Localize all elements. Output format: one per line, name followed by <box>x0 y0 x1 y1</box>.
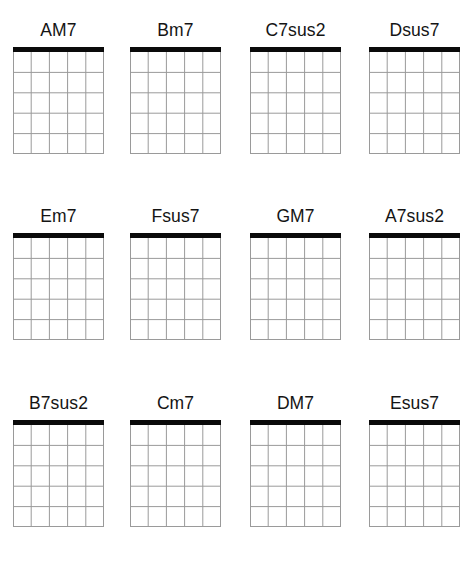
fretboard-lattice <box>130 425 221 527</box>
fret-string-lines <box>130 238 221 340</box>
fret-string-lines <box>250 52 341 154</box>
fretboard[interactable] <box>250 233 341 340</box>
chord-cell[interactable]: Dsus7 <box>355 0 465 154</box>
fret-string-lines <box>250 238 341 340</box>
chord-diagram-dm7[interactable]: DM7 <box>241 376 351 527</box>
chord-label: A7sus2 <box>385 207 444 226</box>
chord-label: AM7 <box>40 21 76 40</box>
chord-sheet: AM7 Bm7 C7sus2 <box>0 0 468 565</box>
fret-string-lines <box>130 425 221 527</box>
chord-label: GM7 <box>276 207 314 226</box>
fretboard-lattice <box>130 52 221 154</box>
chord-cell[interactable]: C7sus2 <box>238 0 348 154</box>
chord-cell[interactable]: AM7 <box>4 0 114 154</box>
fretboard-lattice <box>369 238 460 340</box>
fret-string-lines <box>369 52 460 154</box>
chord-cell[interactable]: Cm7 <box>121 376 231 527</box>
chord-diagram-gm7[interactable]: GM7 <box>241 190 351 340</box>
fretboard-lattice <box>13 52 104 154</box>
fretboard[interactable] <box>250 47 341 154</box>
fretboard[interactable] <box>13 47 104 154</box>
fretboard[interactable] <box>130 420 221 527</box>
chord-label: Cm7 <box>157 394 194 413</box>
fret-string-lines <box>13 52 104 154</box>
fretboard-lattice <box>13 425 104 527</box>
chord-diagram-fsus7[interactable]: Fsus7 <box>121 190 231 340</box>
fretboard-lattice <box>250 52 341 154</box>
chord-cell[interactable]: A7sus2 <box>355 190 465 340</box>
fretboard-lattice <box>369 52 460 154</box>
fretboard[interactable] <box>369 420 460 527</box>
chord-label: Dsus7 <box>389 21 439 40</box>
fretboard[interactable] <box>369 233 460 340</box>
chord-diagram-esus7[interactable]: Esus7 <box>360 376 468 527</box>
chord-diagram-a7sus2[interactable]: A7sus2 <box>360 190 468 340</box>
chord-diagram-am7[interactable]: AM7 <box>4 0 114 154</box>
chord-label: Esus7 <box>390 394 439 413</box>
chord-cell[interactable]: GM7 <box>238 190 348 340</box>
chord-label: DM7 <box>277 394 314 413</box>
fret-string-lines <box>130 52 221 154</box>
chord-diagram-dsus7[interactable]: Dsus7 <box>360 0 468 154</box>
chord-cell[interactable]: Esus7 <box>355 376 465 527</box>
fret-string-lines <box>369 425 460 527</box>
fretboard[interactable] <box>13 420 104 527</box>
chord-cell[interactable]: DM7 <box>238 376 348 527</box>
chord-diagram-bm7[interactable]: Bm7 <box>121 0 231 154</box>
fretboard-lattice <box>369 425 460 527</box>
fretboard[interactable] <box>130 233 221 340</box>
chord-diagram-cm7[interactable]: Cm7 <box>121 376 231 527</box>
chord-label: C7sus2 <box>266 21 326 40</box>
chord-diagram-em7[interactable]: Em7 <box>4 190 114 340</box>
fret-string-lines <box>250 425 341 527</box>
chord-label: Fsus7 <box>151 207 199 226</box>
chord-diagram-grid: AM7 Bm7 C7sus2 <box>0 0 468 565</box>
fretboard-lattice <box>13 238 104 340</box>
fretboard[interactable] <box>369 47 460 154</box>
fret-string-lines <box>13 238 104 340</box>
chord-label: B7sus2 <box>29 394 88 413</box>
fretboard-lattice <box>130 238 221 340</box>
chord-cell[interactable]: Bm7 <box>121 0 231 154</box>
fret-string-lines <box>369 238 460 340</box>
fretboard-lattice <box>250 238 341 340</box>
chord-cell[interactable]: Fsus7 <box>121 190 231 340</box>
chord-cell[interactable]: Em7 <box>4 190 114 340</box>
chord-label: Em7 <box>40 207 76 226</box>
chord-diagram-c7sus2[interactable]: C7sus2 <box>241 0 351 154</box>
fretboard[interactable] <box>250 420 341 527</box>
chord-label: Bm7 <box>157 21 193 40</box>
fret-string-lines <box>13 425 104 527</box>
chord-cell[interactable]: B7sus2 <box>4 376 114 527</box>
fretboard[interactable] <box>13 233 104 340</box>
chord-diagram-b7sus2[interactable]: B7sus2 <box>4 376 114 527</box>
fretboard[interactable] <box>130 47 221 154</box>
fretboard-lattice <box>250 425 341 527</box>
